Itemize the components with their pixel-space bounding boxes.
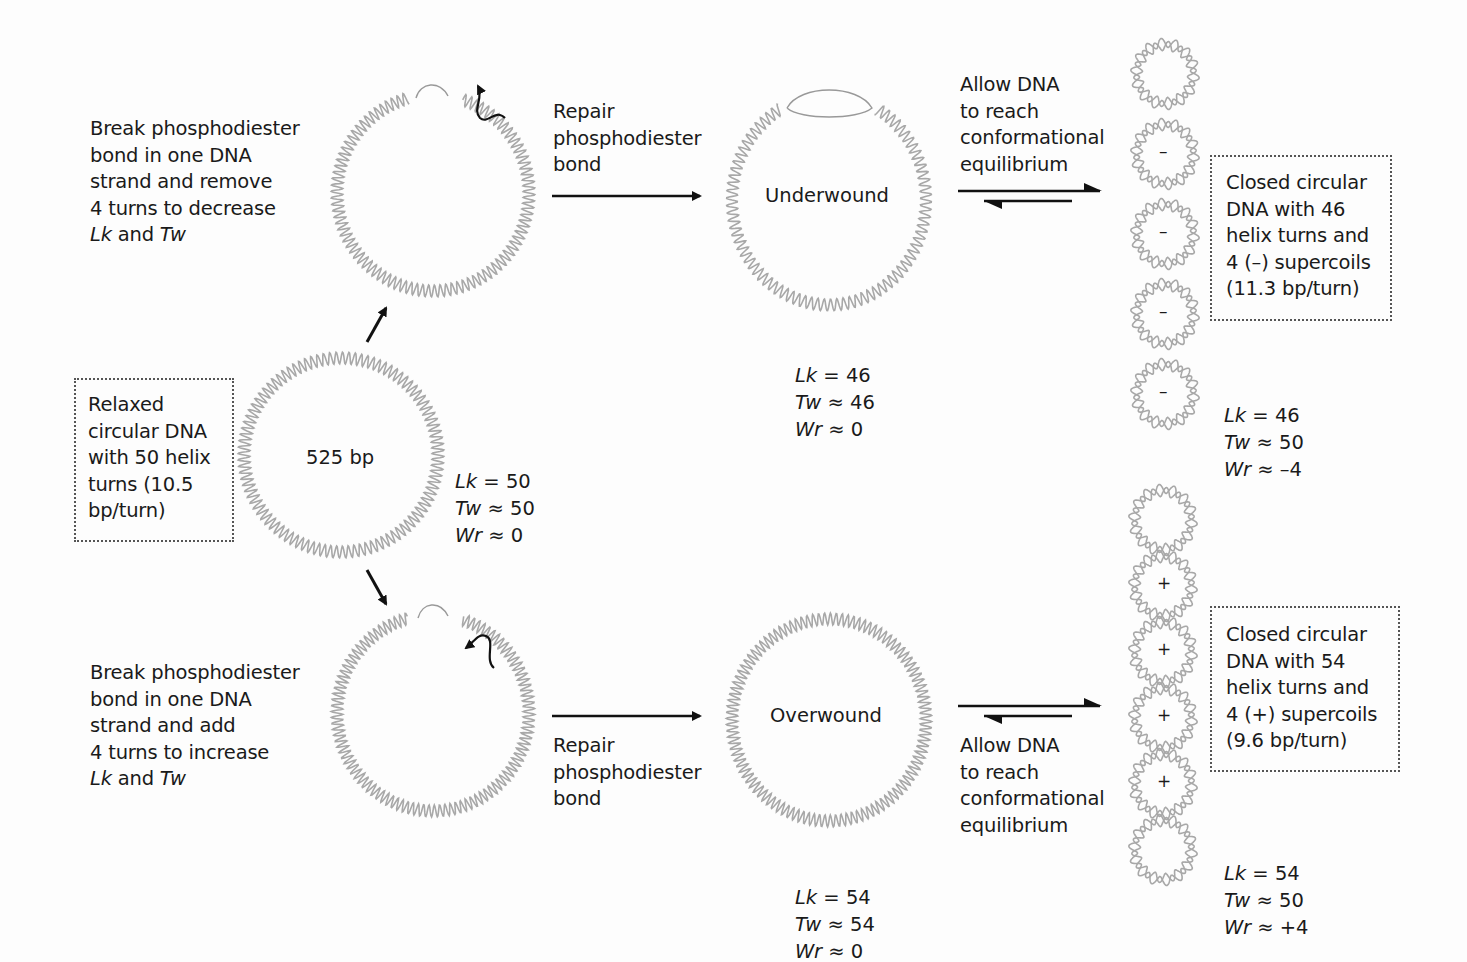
arrow-to-overwound-path [367,570,386,604]
lk-tw-line: Lk and Tw [90,222,300,249]
relaxed-box-line: Relaxed [88,392,211,419]
bottom-step1-line: Break phosphodiester [90,660,300,687]
single-strand-loop-top [416,85,448,98]
value-line: Wr ≈ 0 [795,938,875,962]
relaxed-values: Lk = 50Tw ≈ 50Wr ≈ 0 [455,414,535,576]
nicked-dna-circle-top [331,94,535,297]
positive-supercoil-loop-inner [1132,818,1194,883]
value-line: Wr ≈ –4 [1224,456,1304,483]
top-final-description: Closed circularDNA with 46helix turns an… [1226,170,1371,303]
underwound-dna-circle [727,104,932,310]
top-repair-line: Repair [553,99,701,126]
underwound-bubble [787,90,872,117]
top-step1-line: Break phosphodiester [90,116,300,143]
value-line: Lk = 46 [795,362,875,389]
top-step1-description: Break phosphodiesterbond in one DNAstran… [90,116,300,249]
positive-supercoil-loop [1129,815,1197,886]
bottom-repair-line: Repair [553,733,701,760]
equilibrium-arrows-top [958,183,1102,209]
top-eq-line: conformational [960,125,1104,152]
positive-supercoil-sign: + [1157,639,1171,659]
top-eq-line: Allow DNA [960,72,1104,99]
arrow-to-underwound-path [367,308,386,342]
bottom-step1-description: Break phosphodiesterbond in one DNAstran… [90,660,300,793]
relaxed-dna-size-label: 525 bp [306,446,374,469]
bottom-equilibrium-label: Allow DNAto reachconformationalequilibri… [960,733,1104,839]
winding-strand-arrow [466,635,494,668]
bottom-step1-line: 4 turns to increase [90,740,300,767]
top-final-line: 4 (–) supercoils [1226,250,1371,277]
bottom-repair-line: bond [553,786,701,813]
relaxed-box-line: circular DNA [88,419,211,446]
positive-supercoil-sign: + [1157,705,1171,725]
bottom-eq-line: Allow DNA [960,733,1104,760]
underwound-label: Underwound [765,184,889,207]
negative-supercoil-sign: – [1159,141,1168,161]
value-line: Tw ≈ 50 [1224,887,1308,914]
bottom-repair-label: Repairphosphodiesterbond [553,733,701,813]
positive-supercoil-sign: + [1157,573,1171,593]
relaxed-dna-description: Relaxedcircular DNAwith 50 helixturns (1… [88,392,211,525]
underwound-values: Lk = 46Tw ≈ 46Wr ≈ 0 [795,308,875,470]
relaxed-box-line: turns (10.5 [88,472,211,499]
bottom-final-line: DNA with 54 [1226,649,1377,676]
bottom-eq-line: equilibrium [960,813,1104,840]
relaxed-box-line: with 50 helix [88,445,211,472]
value-line: Lk = 50 [455,468,535,495]
top-equilibrium-label: Allow DNAto reachconformationalequilibri… [960,72,1104,178]
lk-tw-line: Lk and Tw [90,766,300,793]
top-step1-line: 4 turns to decrease [90,196,300,223]
bottom-final-description: Closed circularDNA with 54helix turns an… [1226,622,1377,755]
negative-supercoil-loop-inner [1134,42,1196,107]
positive-supercoil-values: Lk = 54Tw ≈ 50Wr ≈ +4 [1224,806,1308,962]
bottom-step1-line: bond in one DNA [90,687,300,714]
positive-supercoil-loop [1129,485,1197,556]
value-line: Wr ≈ 0 [795,416,875,443]
overwound-values: Lk = 54Tw ≈ 54Wr ≈ 0 [795,830,875,962]
negative-supercoil-sign: – [1159,221,1168,241]
value-line: Tw ≈ 50 [1224,429,1304,456]
top-final-line: Closed circular [1226,170,1371,197]
negative-supercoil-values: Lk = 46Tw ≈ 50Wr ≈ –4 [1224,348,1304,510]
top-final-line: DNA with 46 [1226,197,1371,224]
value-line: Lk = 46 [1224,402,1304,429]
bottom-final-line: 4 (+) supercoils [1226,702,1377,729]
overwound-label: Overwound [770,704,882,727]
top-repair-line: bond [553,152,701,179]
value-line: Tw ≈ 54 [795,911,875,938]
value-line: Tw ≈ 50 [455,495,535,522]
single-strand-loop-bottom [418,605,448,618]
bottom-eq-line: conformational [960,786,1104,813]
bottom-step1-line: strand and add [90,713,300,740]
bottom-final-line: Closed circular [1226,622,1377,649]
value-line: Lk = 54 [795,884,875,911]
equilibrium-arrows-bottom [958,698,1102,724]
top-final-line: (11.3 bp/turn) [1226,276,1371,303]
bottom-final-line: (9.6 bp/turn) [1226,728,1377,755]
bottom-eq-line: to reach [960,760,1104,787]
value-line: Tw ≈ 46 [795,389,875,416]
negative-supercoil-loop [1131,39,1199,110]
top-step1-line: strand and remove [90,169,300,196]
top-repair-line: phosphodiester [553,126,701,153]
value-line: Lk = 54 [1224,860,1308,887]
bottom-final-line: helix turns and [1226,675,1377,702]
top-repair-label: Repairphosphodiesterbond [553,99,701,179]
nicked-dna-circle-bottom [331,613,535,817]
negative-supercoil-sign: – [1159,381,1168,401]
relaxed-box-line: bp/turn) [88,498,211,525]
value-line: Wr ≈ +4 [1224,914,1308,941]
top-final-line: helix turns and [1226,223,1371,250]
negative-supercoil-sign: – [1159,301,1168,321]
top-eq-line: equilibrium [960,152,1104,179]
top-eq-line: to reach [960,99,1104,126]
positive-supercoil-loop-inner [1132,488,1194,553]
bottom-repair-line: phosphodiester [553,760,701,787]
value-line: Wr ≈ 0 [455,522,535,549]
positive-supercoil-sign: + [1157,771,1171,791]
top-step1-line: bond in one DNA [90,143,300,170]
